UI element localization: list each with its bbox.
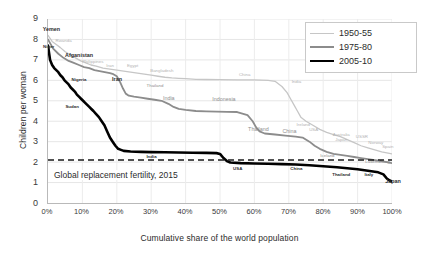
country-label: Thailand: [147, 84, 164, 88]
country-label: Indonesia: [212, 97, 235, 102]
y-tick-label: 5: [24, 96, 38, 105]
country-label: Nigeria: [72, 77, 87, 81]
country-label: Yemen: [43, 28, 60, 33]
country-label: Philippines: [82, 60, 103, 64]
country-label: Ireland: [297, 123, 310, 127]
country-label: Sudan: [65, 105, 78, 109]
legend-label: 1975-80: [339, 42, 372, 52]
x-tick-label: 80%: [307, 208, 339, 216]
country-label: Egypt: [127, 64, 138, 68]
x-tick-label: 50%: [204, 208, 236, 216]
country-label: Japan: [385, 180, 401, 185]
legend-swatch: [310, 46, 334, 47]
country-label: India: [146, 155, 156, 159]
y-tick-label: 0: [24, 199, 38, 208]
country-label: Iran: [106, 64, 114, 68]
legend-item: 1950-55: [310, 26, 412, 40]
country-label: USA: [233, 166, 242, 170]
country-label: Afganistan: [65, 53, 93, 58]
x-axis-title: Cumulative share of the world population: [47, 233, 392, 243]
country-label: Italy: [364, 173, 373, 177]
country-label: Luxembourg: [365, 160, 389, 164]
legend-swatch: [310, 60, 334, 62]
legend-item: 2005-10: [310, 54, 412, 68]
legend-label: 2005-10: [339, 56, 372, 66]
y-tick-label: 2: [24, 158, 38, 167]
country-label: USSR: [356, 134, 368, 138]
legend-item: 1975-80: [310, 40, 412, 54]
country-label: Thailand: [248, 128, 269, 133]
country-label: Iceland: [320, 154, 334, 158]
country-label: Thailand: [332, 173, 350, 177]
country-label: Norway: [368, 141, 383, 145]
x-tick-label: 10%: [66, 208, 98, 216]
country-label: Niger: [43, 45, 54, 49]
x-tick-label: 30%: [135, 208, 167, 216]
country-label: China: [239, 73, 250, 77]
replacement-fertility-label: Global replacement fertility, 2015: [52, 170, 180, 180]
y-tick-label: 6: [24, 76, 38, 85]
country-label: China: [290, 166, 302, 170]
x-tick-label: 70%: [273, 208, 305, 216]
country-label: Rwanda: [55, 38, 71, 42]
country-label: India: [292, 79, 302, 83]
x-tick-label: 40%: [169, 208, 201, 216]
x-tick-label: 20%: [100, 208, 132, 216]
country-label: Japan: [335, 138, 347, 142]
x-tick-label: 90%: [342, 208, 374, 216]
legend: 1950-551975-802005-10: [305, 22, 417, 73]
x-tick-label: 60%: [238, 208, 270, 216]
legend-label: 1950-55: [339, 28, 372, 38]
x-tick-label: 0%: [31, 208, 63, 216]
country-label: Spain: [382, 145, 393, 149]
y-tick-label: 7: [24, 55, 38, 64]
legend-swatch: [310, 33, 334, 34]
country-label: Bangladesh: [150, 69, 173, 73]
fertility-chart: Children per woman Cumulative share of t…: [0, 0, 433, 258]
x-tick-label: 100%: [376, 208, 408, 216]
y-tick-label: 1: [24, 178, 38, 187]
country-label: India: [163, 96, 175, 101]
y-tick-label: 8: [24, 35, 38, 44]
country-label: China: [282, 129, 296, 134]
country-label: Iran: [112, 77, 122, 82]
y-tick-label: 4: [24, 117, 38, 126]
y-tick-label: 9: [24, 14, 38, 23]
country-label: USA: [309, 128, 318, 132]
y-tick-label: 3: [24, 137, 38, 146]
